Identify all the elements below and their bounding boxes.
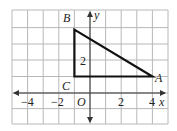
x-tick-label-neg4: −4 <box>21 95 34 109</box>
coordinate-plane: y x O −4 −2 2 4 2 A B C <box>0 0 177 131</box>
axis-label-y: y <box>93 8 100 22</box>
x-tick-label-4: 4 <box>149 95 155 109</box>
triangle-abc <box>74 30 152 77</box>
vertex-label-a: A <box>154 71 163 85</box>
axis-label-x: x <box>158 95 165 109</box>
vertex-label-c: C <box>62 79 71 93</box>
y-tick-label-2: 2 <box>80 54 86 68</box>
x-tick-label-2: 2 <box>118 95 124 109</box>
x-tick-label-neg2: −2 <box>51 95 64 109</box>
vertex-label-b: B <box>63 11 71 25</box>
origin-label: O <box>77 95 86 109</box>
